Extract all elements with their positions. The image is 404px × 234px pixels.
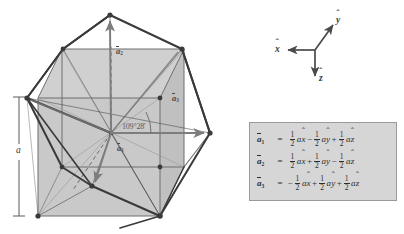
equation-term: + 1 2 ay	[311, 175, 336, 191]
fraction: 1 2	[344, 175, 350, 191]
equation-lhs: a2	[257, 155, 274, 167]
lattice-parameter-label: a	[16, 146, 21, 156]
equation-term: 1 2 ax	[286, 131, 306, 147]
y-axis-arrow	[315, 25, 333, 50]
equation-row: a1 = 1 2 ax − 1 2 ay	[257, 128, 390, 150]
crystal-structure-figure: a2 a3 a1 109°28' a x y z a1 = 1 2	[0, 0, 404, 234]
x-axis-label: x	[275, 45, 280, 55]
equation-row: a2 = 1 2 ax + 1 2 ay	[257, 150, 390, 172]
equals-sign: =	[274, 156, 286, 166]
y-axis-label: y	[336, 16, 340, 26]
fraction: 1 2	[314, 153, 320, 169]
equation-term: + 1 2 ay	[306, 153, 331, 169]
fraction: 1 2	[295, 175, 301, 191]
fraction: 1 2	[290, 131, 296, 147]
fraction: 1 2	[339, 153, 345, 169]
equation-term: + 1 2 az	[335, 175, 359, 191]
equation-rhs: 1 2 ax + 1 2 ay − 1	[286, 153, 354, 169]
equation-lhs: a1	[257, 133, 274, 145]
equation-rhs: − 1 2 ax + 1 2 ay +	[286, 175, 359, 191]
primitive-vector-equations-panel: a1 = 1 2 ax − 1 2 ay	[249, 122, 397, 201]
vector-label-a3: a3	[172, 93, 179, 104]
equation-lhs: a3	[257, 177, 274, 189]
equation-term: 1 2 ax	[286, 153, 306, 169]
equation-term: − 1 2 ay	[306, 131, 331, 147]
fraction: 1 2	[319, 175, 325, 191]
bond-angle-label: 109°28'	[122, 123, 145, 131]
equals-sign: =	[274, 134, 286, 144]
vector-label-a1: a1	[117, 143, 124, 154]
equation-row: a3 = − 1 2 ax + 1 2 ay	[257, 172, 390, 194]
equation-rhs: 1 2 ax − 1 2 ay + 1	[286, 131, 354, 147]
z-axis-label: z	[319, 74, 323, 84]
fraction: 1 2	[290, 153, 296, 169]
vector-label-a2: a2	[116, 46, 123, 57]
fraction: 1 2	[314, 131, 320, 147]
fraction: 1 2	[339, 131, 345, 147]
equation-term: − 1 2 az	[330, 153, 354, 169]
equation-term: + 1 2 az	[330, 131, 354, 147]
equals-sign: =	[274, 178, 286, 188]
equation-term: − 1 2 ax	[286, 175, 311, 191]
